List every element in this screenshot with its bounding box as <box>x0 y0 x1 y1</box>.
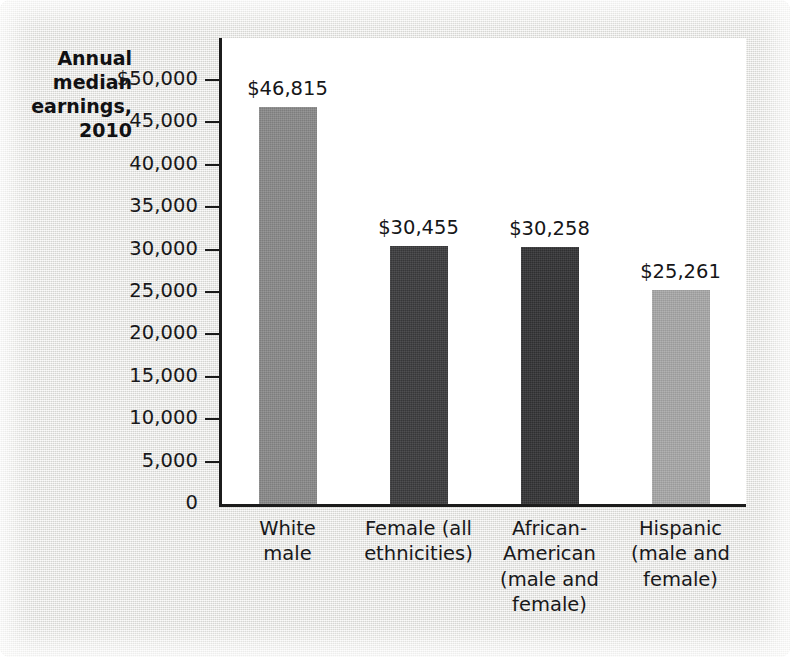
y-tick-mark <box>205 418 220 420</box>
bar-texture <box>259 107 317 504</box>
x-axis-category-label-line: Female (all <box>353 516 484 541</box>
y-tick-label: $50,000 <box>0 67 198 90</box>
x-axis-category-label-line: female) <box>484 592 615 617</box>
bar-texture <box>390 246 448 504</box>
x-axis-category-label-line: male <box>222 541 353 566</box>
bar: $30,455 <box>390 246 448 504</box>
y-tick-mark <box>205 206 220 208</box>
bar-chart: Annual median earnings, 2010 $50,00045,0… <box>0 0 790 657</box>
y-tick-label: 40,000 <box>0 152 198 175</box>
x-axis-category-label: Hispanic(male andfemale) <box>615 516 746 592</box>
y-tick-label: 5,000 <box>0 449 198 472</box>
bar: $25,261 <box>652 290 710 504</box>
x-axis-category-label-line: (male and <box>615 541 746 566</box>
x-axis-category-label-line: female) <box>615 567 746 592</box>
y-tick-mark <box>205 164 220 166</box>
y-tick-label: 15,000 <box>0 364 198 387</box>
y-tick-mark <box>205 121 220 123</box>
x-axis-category-label-line: (male and <box>484 567 615 592</box>
bar-value-label: $46,815 <box>247 77 328 100</box>
y-tick-mark <box>205 291 220 293</box>
y-tick-mark <box>205 333 220 335</box>
x-axis-category-label-line: ethnicities) <box>353 541 484 566</box>
bar-value-label: $30,455 <box>378 216 459 239</box>
y-tick-label: 45,000 <box>0 109 198 132</box>
bar-value-label: $30,258 <box>509 217 590 240</box>
figure-panel: Annual median earnings, 2010 $50,00045,0… <box>0 0 790 657</box>
y-tick-mark <box>205 376 220 378</box>
y-tick-mark <box>205 249 220 251</box>
bar: $30,258 <box>521 247 579 504</box>
x-axis-category-label: Female (allethnicities) <box>353 516 484 567</box>
y-tick-label: 25,000 <box>0 279 198 302</box>
y-tick-label: 10,000 <box>0 406 198 429</box>
x-axis-category-label: Whitemale <box>222 516 353 567</box>
x-axis-category-label-line: White <box>222 516 353 541</box>
x-axis-category-label-line: American <box>484 541 615 566</box>
x-axis-category-label: African-American(male andfemale) <box>484 516 615 617</box>
bar-value-label: $25,261 <box>640 260 721 283</box>
y-tick-label: 30,000 <box>0 237 198 260</box>
y-tick-label: 0 <box>0 491 198 514</box>
bar-texture <box>652 290 710 504</box>
x-axis-category-label-line: African- <box>484 516 615 541</box>
x-axis-line <box>219 504 746 507</box>
bar-texture <box>521 247 579 504</box>
bar: $46,815 <box>259 107 317 504</box>
y-tick-label: 20,000 <box>0 321 198 344</box>
y-tick-mark <box>205 461 220 463</box>
y-tick-label: 35,000 <box>0 194 198 217</box>
x-axis-category-label-line: Hispanic <box>615 516 746 541</box>
y-axis-line <box>219 38 222 507</box>
y-tick-mark <box>205 79 220 81</box>
